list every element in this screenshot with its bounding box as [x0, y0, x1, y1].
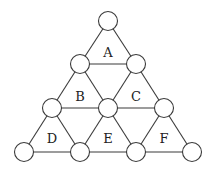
node-circle-n6 — [15, 143, 34, 162]
node-circle-n7 — [71, 143, 90, 162]
node-circle-n1 — [71, 55, 90, 74]
region-label-d: D — [47, 131, 57, 146]
region-label-a: A — [102, 45, 113, 60]
node-circle-n9 — [183, 143, 202, 162]
node-circle-n8 — [127, 143, 146, 162]
node-circle-n2 — [127, 55, 146, 74]
node-circle-n3 — [43, 99, 62, 118]
region-label-e: E — [103, 131, 113, 146]
region-label-b: B — [75, 89, 85, 104]
region-label-f: F — [159, 131, 168, 146]
node-circle-n0 — [99, 12, 118, 31]
region-label-c: C — [131, 89, 141, 104]
node-circle-n5 — [155, 99, 174, 118]
triangle-grid-diagram: ABCDEF — [0, 0, 211, 169]
node-circle-n4 — [99, 99, 118, 118]
